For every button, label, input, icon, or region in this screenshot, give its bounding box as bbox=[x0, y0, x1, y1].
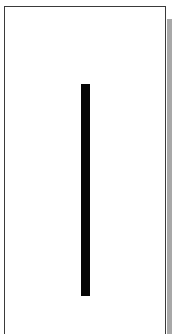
vertical-bar bbox=[81, 84, 90, 296]
drop-shadow bbox=[167, 19, 172, 334]
canvas bbox=[0, 0, 176, 334]
